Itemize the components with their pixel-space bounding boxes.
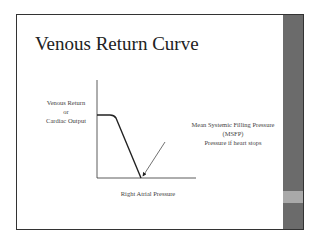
venous-return-plot (0, 0, 315, 244)
msfp-arrow (143, 142, 165, 176)
venous-return-curve (97, 115, 141, 178)
